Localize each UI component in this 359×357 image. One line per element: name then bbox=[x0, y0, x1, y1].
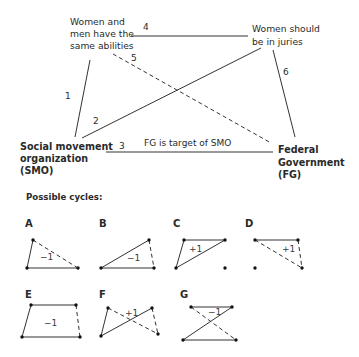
cycle-letter: E bbox=[25, 289, 32, 300]
svg-text:Government: Government bbox=[278, 157, 345, 168]
cycles-heading: Possible cycles: bbox=[26, 192, 102, 202]
edge-label-3: 3 bbox=[119, 141, 125, 151]
svg-text:Federal: Federal bbox=[278, 144, 319, 155]
edge-label-5: 5 bbox=[131, 53, 137, 63]
svg-text:(FG): (FG) bbox=[278, 169, 301, 180]
cycle-e: E −1 bbox=[20, 289, 81, 339]
cycle-letter: D bbox=[245, 218, 253, 229]
svg-text:organization: organization bbox=[20, 153, 88, 164]
edge-label-1: 1 bbox=[65, 91, 71, 101]
cycle-letter: B bbox=[99, 218, 107, 229]
svg-text:same abilities: same abilities bbox=[70, 40, 134, 51]
cycle-f: F +1 bbox=[99, 289, 160, 338]
cycle-sign: +1 bbox=[282, 244, 295, 254]
cycle-sign: −1 bbox=[127, 253, 140, 263]
cycle-d: D +1 bbox=[245, 218, 304, 270]
cycle-letter: F bbox=[99, 289, 106, 300]
cycle-sign: −1 bbox=[44, 318, 57, 328]
cycle-letter: C bbox=[173, 218, 180, 229]
edge-6 bbox=[273, 50, 295, 137]
svg-text:Women should: Women should bbox=[252, 23, 320, 34]
node-juries: Women should be in juries bbox=[252, 23, 320, 47]
balance-diagram: 4 1 5 2 6 3 FG is target of SMO Women an… bbox=[0, 0, 359, 357]
node-abilities: Women and men have the same abilities bbox=[70, 16, 134, 51]
edge-label-2: 2 bbox=[93, 116, 99, 126]
cycle-letter: A bbox=[25, 218, 33, 229]
main-graph-edges bbox=[75, 36, 295, 152]
cycle-b: B −1 bbox=[99, 218, 156, 270]
node-fg: Federal Government (FG) bbox=[278, 144, 345, 180]
svg-text:be in juries: be in juries bbox=[252, 36, 303, 47]
cycle-a: A −1 bbox=[25, 218, 80, 270]
cycle-c: C +1 bbox=[173, 218, 227, 270]
cycle-g: G −1 bbox=[180, 289, 238, 342]
svg-text:Women and: Women and bbox=[70, 16, 125, 27]
node-smo: Social movement organization (SMO) bbox=[20, 141, 113, 176]
edge-5 bbox=[113, 54, 271, 143]
cycle-sign: +1 bbox=[125, 308, 138, 318]
edge-1 bbox=[75, 60, 90, 137]
edge-caption-3: FG is target of SMO bbox=[144, 138, 231, 148]
cycle-sign: +1 bbox=[189, 244, 202, 254]
svg-text:(SMO): (SMO) bbox=[20, 165, 53, 176]
edge-label-4: 4 bbox=[143, 22, 149, 32]
svg-text:men have the: men have the bbox=[70, 28, 134, 39]
svg-text:Social movement: Social movement bbox=[20, 141, 113, 152]
edge-2 bbox=[82, 48, 261, 138]
cycle-sign: −1 bbox=[40, 252, 53, 262]
edge-label-6: 6 bbox=[283, 67, 289, 77]
cycle-sign: −1 bbox=[208, 307, 221, 317]
cycle-letter: G bbox=[180, 289, 188, 300]
